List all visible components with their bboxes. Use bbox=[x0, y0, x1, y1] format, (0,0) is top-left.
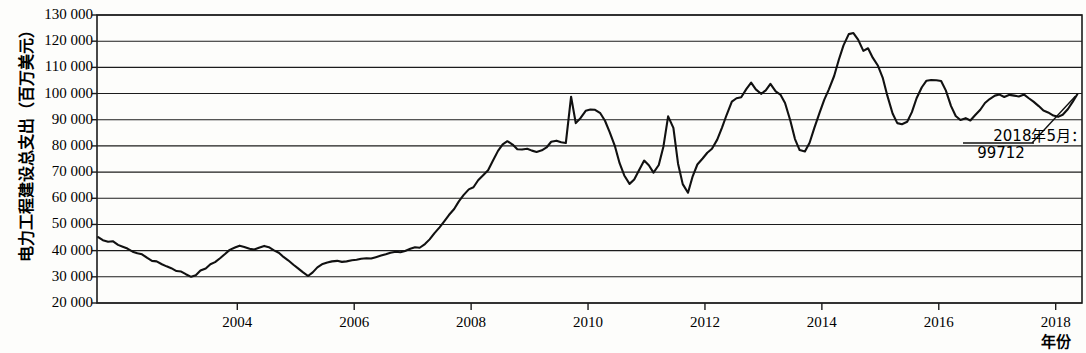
x-tick-label: 2010 bbox=[573, 315, 603, 330]
x-tick-label: 2004 bbox=[222, 315, 252, 330]
x-tick-label: 2018 bbox=[1041, 315, 1071, 330]
annotation-label-date: 2018年5月： bbox=[930, 128, 1086, 145]
x-tick-label: 2016 bbox=[924, 315, 954, 330]
chart-container: 电力工程建设总支出（百万美元） 20 00030 00040 00050 000… bbox=[0, 0, 1086, 353]
x-tick-label: 2014 bbox=[807, 315, 837, 330]
x-tick-label: 2012 bbox=[690, 315, 720, 330]
annotation-callout: 2018年5月： 99712 bbox=[930, 128, 1086, 162]
x-axis-tick-labels: 20042006200820102012201420162018 bbox=[0, 0, 1086, 353]
x-tick-label: 2008 bbox=[456, 315, 486, 330]
annotation-label-value: 99712 bbox=[930, 145, 1086, 162]
x-axis-title: 年份 bbox=[1041, 335, 1071, 350]
x-tick-label: 2006 bbox=[339, 315, 369, 330]
